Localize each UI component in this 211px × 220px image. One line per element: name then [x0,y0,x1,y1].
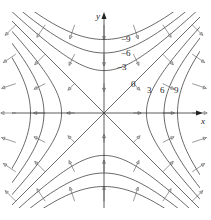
arrowhead-icon [69,35,72,39]
arrowhead-icon [201,163,205,166]
arrowhead-icon [168,189,171,193]
diagram-canvas: x y −9 −6 −3 0 3 6 9 [0,0,211,219]
arrowhead-icon [203,86,207,89]
arrowhead-icon [203,137,207,140]
level-curve [0,0,31,219]
arrowhead-icon [34,137,38,140]
arrowhead-icon [2,137,6,140]
arrowhead-icon [69,187,72,191]
level-curve [0,0,211,71]
level-label-9: 9 [174,85,179,95]
level-curve-diagram: x y −9 −6 −3 0 3 6 9 [0,0,211,219]
arrowhead-icon [136,187,139,191]
y-axis-label: y [95,11,100,21]
arrowhead-icon [136,161,139,165]
arrowhead-icon [3,163,7,166]
arrowhead-icon [34,86,38,89]
arrowhead-icon [170,137,174,140]
arrowhead-icon [2,86,6,89]
level-label-0: 0 [131,79,136,89]
y-axis-arrow-icon [102,12,107,19]
level-curve [0,0,211,40]
level-label-3: 3 [147,85,152,95]
arrowhead-icon [136,62,139,66]
level-label-6: 6 [160,85,165,95]
arrowhead-icon [136,35,139,39]
level-curve [0,173,211,219]
level-label-neg3: −3 [117,62,127,72]
level-curve [164,0,211,219]
arrowhead-icon [168,34,171,38]
level-curves [0,0,211,219]
arrowhead-icon [37,189,40,193]
level-curve [0,187,211,220]
arrowhead-icon [69,161,72,165]
arrowhead-icon [201,59,205,62]
arrowhead-icon [37,34,40,38]
x-axis-arrow-icon [196,111,203,116]
level-curve [0,155,211,219]
arrowhead-icon [1,111,4,114]
arrowhead-icon [3,59,7,62]
level-label-neg9: −9 [121,34,131,44]
arrowhead-icon [69,62,72,66]
x-axis-label: x [200,116,205,126]
level-label-neg6: −6 [121,48,131,58]
arrowhead-icon [204,111,207,114]
